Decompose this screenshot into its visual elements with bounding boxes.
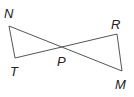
label-M: M bbox=[115, 77, 126, 92]
segment-NT bbox=[9, 26, 15, 58]
geometry-diagram: N R T P M bbox=[0, 0, 134, 97]
label-P: P bbox=[57, 54, 66, 69]
segment-RM bbox=[117, 34, 122, 71]
label-N: N bbox=[4, 6, 14, 21]
diagram-canvas: N R T P M bbox=[0, 0, 134, 97]
label-T: T bbox=[10, 64, 19, 79]
segment-TR bbox=[15, 34, 117, 58]
label-R: R bbox=[111, 17, 120, 32]
